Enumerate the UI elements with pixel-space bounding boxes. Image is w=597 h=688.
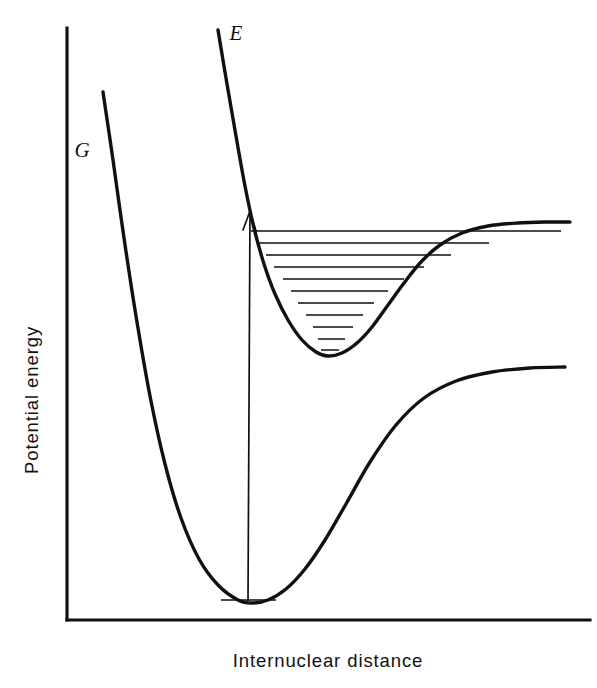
y-axis-label: Potential energy — [21, 326, 42, 474]
vertical-transition-arrow — [243, 211, 256, 601]
ground-state-label: G — [74, 138, 89, 162]
ground-state-curve — [103, 92, 565, 603]
ground-state-curve-group — [103, 92, 565, 603]
x-axis-label: Internuclear distance — [233, 650, 424, 671]
excited-state-label: E — [229, 21, 243, 45]
figure-canvas: G E Internuclear distance Potential ener… — [0, 0, 597, 688]
potential-energy-diagram: G E Internuclear distance Potential ener… — [0, 0, 597, 688]
excited-state-curve — [218, 30, 570, 356]
transition-arrow-shaft — [248, 211, 250, 601]
excited-state-curve-group — [218, 30, 570, 356]
